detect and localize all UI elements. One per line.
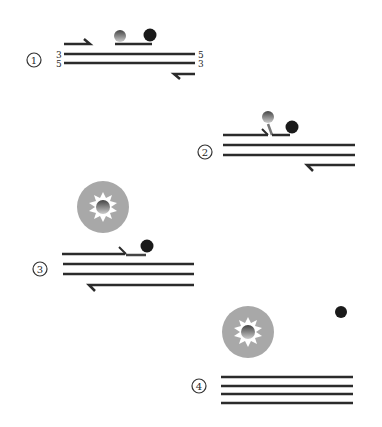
- reverse-primer-arrow: [307, 165, 355, 171]
- displaced-probe-flap: [268, 124, 272, 135]
- quencher-dye-icon: [144, 29, 157, 42]
- reporter-dye-icon: [114, 30, 126, 42]
- step-1: 1 3 5 5 3: [27, 29, 204, 80]
- step-2-number: 2: [202, 147, 208, 158]
- taqman-diagram: 1 3 5 5 3 2 3: [0, 0, 382, 427]
- reporter-dye-icon: [241, 325, 255, 339]
- reporter-dye-icon: [262, 111, 274, 123]
- reverse-primer-arrow: [89, 285, 194, 291]
- step-3-number: 3: [37, 264, 43, 275]
- quencher-dye-icon: [286, 121, 299, 134]
- forward-primer-arrow: [64, 39, 90, 44]
- diagram-svg: 1 3 5 5 3 2 3: [0, 0, 382, 427]
- step-4-number: 4: [196, 381, 202, 392]
- end-label-5-left: 5: [56, 59, 62, 69]
- step-4: 4: [192, 306, 353, 403]
- step-3: 3: [33, 181, 194, 291]
- end-label-3-right: 3: [198, 59, 204, 69]
- quencher-dye-icon: [141, 240, 154, 253]
- reverse-primer-arrow: [174, 74, 195, 79]
- quencher-dye-icon: [335, 306, 347, 318]
- step-1-number: 1: [31, 55, 37, 66]
- step-2: 2: [198, 111, 355, 171]
- reporter-dye-icon: [96, 200, 110, 214]
